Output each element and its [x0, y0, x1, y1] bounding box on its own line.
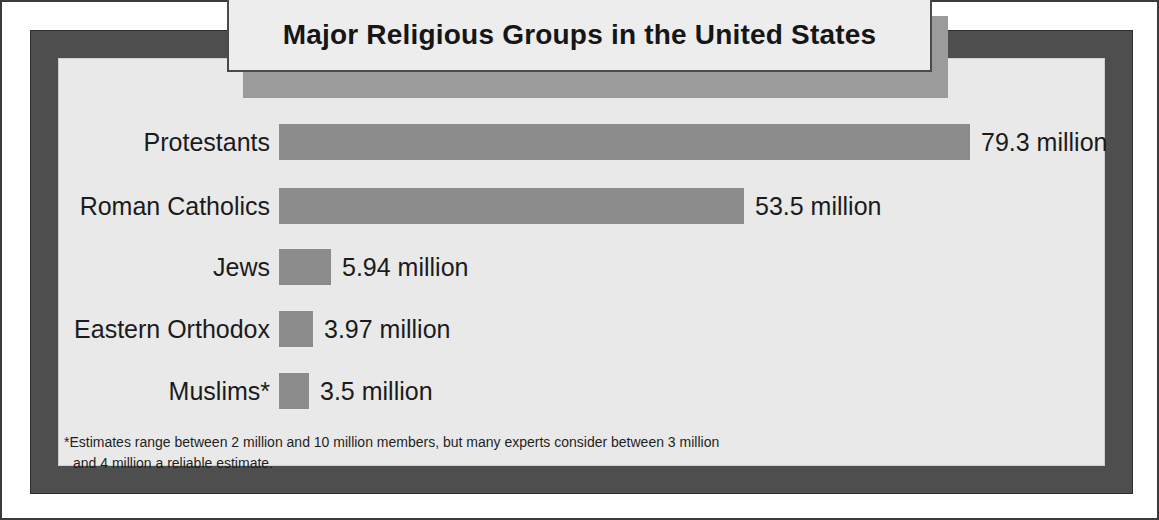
bar-category-label: Eastern Orthodox: [0, 311, 270, 347]
bar: [279, 249, 331, 285]
bar: [279, 373, 309, 409]
bar-value-label: 3.97 million: [324, 311, 450, 347]
footnote-line-1: *Estimates range between 2 million and 1…: [64, 434, 719, 450]
bar: [279, 311, 313, 347]
bar-category-label: Protestants: [0, 124, 270, 160]
bar-category-label: Muslims*: [0, 373, 270, 409]
bar-row: Jews5.94 million: [2, 249, 1159, 285]
bar-value-label: 3.5 million: [320, 373, 433, 409]
bar-value-label: 79.3 million: [981, 124, 1107, 160]
bar-category-label: Roman Catholics: [0, 188, 270, 224]
bar-row: Muslims*3.5 million: [2, 373, 1159, 409]
chart-figure: Major Religious Groups in the United Sta…: [0, 0, 1159, 520]
bar-value-label: 5.94 million: [342, 249, 468, 285]
footnote-line-2: and 4 million a reliable estimate.: [64, 453, 1044, 474]
bar-category-label: Jews: [0, 249, 270, 285]
bar-value-label: 53.5 million: [755, 188, 881, 224]
bar: [279, 188, 744, 224]
bar: [279, 124, 970, 160]
bar-row: Roman Catholics53.5 million: [2, 188, 1159, 224]
chart-footnote: *Estimates range between 2 million and 1…: [64, 432, 1044, 474]
bar-row: Eastern Orthodox3.97 million: [2, 311, 1159, 347]
bar-row: Protestants79.3 million: [2, 124, 1159, 160]
